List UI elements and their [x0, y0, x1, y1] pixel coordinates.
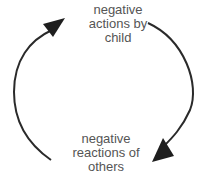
node-text-line: others	[56, 160, 156, 174]
node-text-line: child	[68, 31, 168, 45]
node-text-line: actions by	[68, 17, 168, 31]
node-negative-reactions-of-others: negative reactions of others	[56, 132, 156, 174]
left-arrowhead-icon	[43, 18, 65, 37]
node-negative-actions-by-child: negative actions by child	[68, 3, 168, 45]
node-text-line: reactions of	[56, 146, 156, 160]
left-arc-arrow	[14, 30, 52, 160]
node-text-line: negative	[68, 3, 168, 17]
node-text-line: negative	[56, 132, 156, 146]
